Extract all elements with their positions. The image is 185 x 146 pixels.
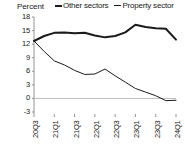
plot-area: [0, 0, 185, 146]
series-line-property-sector: [34, 41, 176, 101]
series-line-other-sectors: [34, 25, 176, 41]
chart-container: Percent Other sectors Property sector 18…: [0, 0, 185, 146]
